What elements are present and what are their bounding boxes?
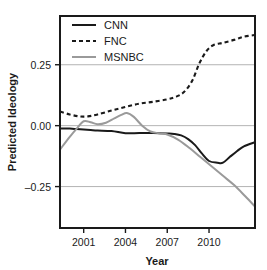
y-axis-title: Predicted Ideology	[6, 72, 18, 171]
legend-label-cnn: CNN	[104, 19, 128, 31]
chart-figure: 0.250.00–0.25 2001200420072010 CNNFNCMSN…	[0, 0, 267, 270]
x-tick-label-3: 2010	[197, 236, 221, 248]
predicted-ideology-line-chart: 0.250.00–0.25 2001200420072010 CNNFNCMSN…	[0, 0, 267, 270]
y-tick-label-1: 0.00	[31, 120, 52, 132]
legend-label-fnc: FNC	[104, 35, 127, 47]
x-tick-label-2: 2007	[156, 236, 180, 248]
y-axis-ticks: 0.250.00–0.25	[25, 59, 60, 193]
x-tick-label-1: 2004	[114, 236, 138, 248]
x-axis-title: Year	[145, 255, 169, 267]
y-tick-label-2: –0.25	[25, 181, 51, 193]
legend-label-msnbc: MSNBC	[104, 51, 144, 63]
x-tick-label-0: 2001	[72, 236, 96, 248]
y-tick-label-0: 0.25	[31, 59, 52, 71]
x-axis-ticks: 2001200420072010	[72, 228, 221, 248]
